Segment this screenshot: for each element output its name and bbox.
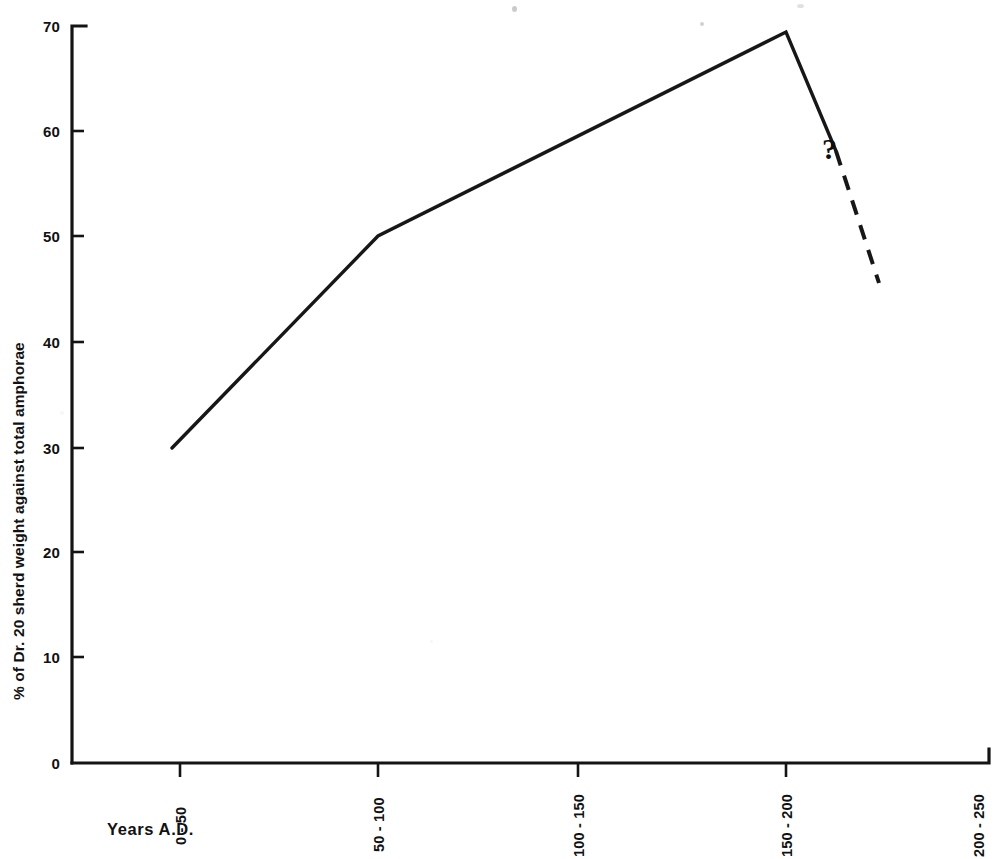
chart-figure: 70 60 50 40 30 20 10 0 0 - 50 50 - 100 1… [0,0,1007,859]
y-tick-label-60: 60 [22,123,60,140]
data-line-dashed-projection [836,151,879,283]
y-tick-label-70: 70 [22,18,60,35]
y-tick-label-0: 0 [22,755,60,772]
uncertainty-question-mark-annotation: ? [822,132,837,166]
x-tick-label-200-250: 200 - 250 [971,794,987,857]
x-axis-line [72,749,989,763]
x-tick-label-50-100: 50 - 100 [371,797,387,852]
chart-plot-area [0,0,1007,859]
data-line-solid [172,32,836,448]
x-axis-title: Years A.D. [107,820,194,839]
x-tick-label-100-150: 100 - 150 [571,794,587,857]
y-axis-line [72,26,86,763]
y-tick-label-50: 50 [22,228,60,245]
y-axis-ticks [72,131,84,657]
x-axis-ticks [180,763,786,777]
y-axis-title: % of Dr. 20 sherd weight against total a… [10,342,28,700]
x-tick-label-150-200: 150 - 200 [779,794,795,857]
